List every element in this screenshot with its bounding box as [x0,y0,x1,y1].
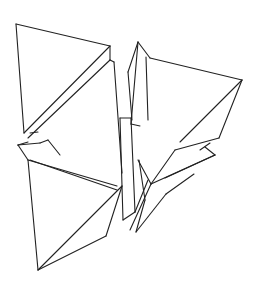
edge-line [131,42,138,124]
edge-line [150,58,242,80]
edge-line [40,140,48,143]
edge-line [28,160,38,270]
edge-line [131,124,140,126]
edge-line [131,118,135,212]
edge-line [110,60,114,62]
edge-line [38,236,106,270]
edge-line [219,80,242,138]
edge-line [146,57,148,120]
edge-line [38,186,122,270]
edge-line [128,72,132,120]
edge-line [28,60,110,138]
edge-line [130,184,151,230]
polyhedra-line-drawing [0,0,260,285]
edge-line [123,212,135,220]
edge-line [166,174,194,194]
edge-line [24,46,110,133]
edge-line [16,24,24,133]
edge-line [16,24,110,46]
edge-line [120,118,123,220]
edge-line [205,147,215,155]
edge-line [165,155,215,178]
edge-line [30,132,38,133]
edge-line [30,160,117,190]
edge-line [18,145,28,160]
edge-line [48,140,60,155]
edge-line [138,42,150,58]
edge-line [180,80,242,142]
edge-line [200,143,210,150]
